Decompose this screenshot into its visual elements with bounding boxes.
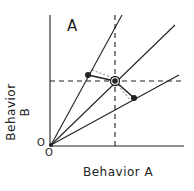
point-left xyxy=(85,72,91,78)
panel-label: A xyxy=(67,17,77,35)
point-center xyxy=(112,78,118,84)
point-right xyxy=(131,95,137,101)
origin-label-x: O xyxy=(45,147,53,158)
origin-label-y: O xyxy=(37,137,45,148)
x-axis-label: Behavior A xyxy=(83,165,153,179)
figure: A Behavior A Behavior B O O xyxy=(0,0,194,191)
y-axis-label: Behavior B xyxy=(4,82,32,142)
